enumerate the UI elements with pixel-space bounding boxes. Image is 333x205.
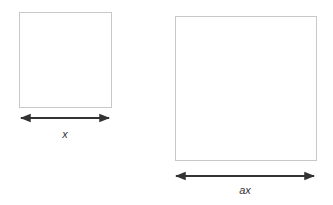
scaling-diagram xyxy=(0,0,333,205)
large-square xyxy=(176,17,317,161)
large-width-label: ax xyxy=(239,185,251,196)
small-width-label: x xyxy=(62,129,68,140)
small-square xyxy=(20,13,112,108)
